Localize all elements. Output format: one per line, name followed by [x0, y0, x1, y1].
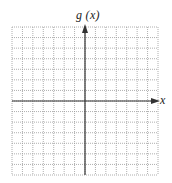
y-axis-arrow-icon — [82, 24, 88, 33]
x-axis-arrow-icon — [151, 98, 160, 104]
coordinate-grid — [0, 0, 172, 183]
x-axis — [12, 98, 160, 104]
y-axis-label: g (x) — [76, 8, 100, 23]
x-axis-label: x — [160, 93, 165, 108]
y-axis — [82, 24, 88, 175]
